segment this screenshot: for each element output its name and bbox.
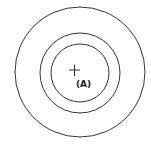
outer-circle bbox=[15, 7, 145, 137]
concentric-circles-diagram: (A) bbox=[0, 0, 151, 144]
point-label: (A) bbox=[76, 79, 91, 89]
plus-marker-icon bbox=[69, 65, 80, 77]
inner-circle bbox=[51, 44, 109, 102]
middle-circle bbox=[40, 33, 120, 113]
